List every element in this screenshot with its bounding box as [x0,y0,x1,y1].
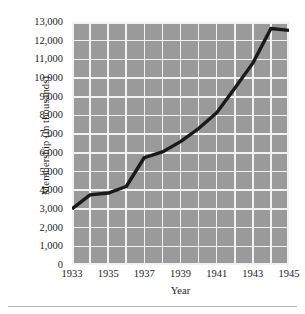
x-tick-label: 1935 [98,268,119,280]
y-tick-label: 2,000 [39,223,63,233]
x-tick-label: 1941 [206,268,227,280]
y-tick-label: 11,000 [35,54,64,64]
y-tick-label: 9,000 [39,92,63,102]
bottom-divider [8,306,297,307]
y-tick-label: 4,000 [39,185,63,195]
x-tick-label: 1945 [279,268,300,280]
x-tick-label: 1933 [62,268,83,280]
y-tick-label: 1,000 [39,241,63,251]
y-tick-label: 13,000 [34,17,63,27]
y-tick-label: 12,000 [34,36,63,46]
x-tick-label: 1937 [134,268,155,280]
membership-series-line [72,22,289,265]
x-axis-tick-labels: 1933193519371939194119431945 [72,268,289,284]
y-tick-label: 5,000 [39,167,63,177]
y-tick-label: 8,000 [39,110,63,120]
x-tick-label: 1939 [170,268,191,280]
y-axis-tick-labels: 13,00012,00011,00010,0009,0008,0007,0006… [6,22,66,265]
x-tick-label: 1943 [242,268,263,280]
y-tick-label: 7,000 [39,129,63,139]
y-tick-label: 3,000 [39,204,63,214]
plot-area [72,22,289,265]
y-tick-label: 6,000 [39,148,63,158]
membership-line-chart: Membership (in thousands) 13,00012,00011… [0,0,305,314]
x-axis-title: Year [72,285,289,296]
y-tick-label: 10,000 [34,73,63,83]
